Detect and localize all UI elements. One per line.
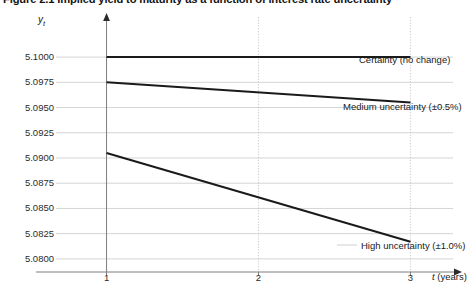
x-tick-label-2: 3 bbox=[398, 272, 422, 283]
y-tick-label-7: 5.0975 bbox=[8, 77, 54, 87]
x-axis-title-unit: (years) bbox=[435, 271, 467, 282]
figure-container: Figure 2.1 Implied yield to maturity as … bbox=[0, 0, 474, 297]
y-tick-label-5: 5.0925 bbox=[8, 128, 54, 138]
y-tick-label-8: 5.1000 bbox=[8, 52, 54, 62]
x-tick-label-1: 2 bbox=[247, 272, 271, 283]
x-tick-label-0: 1 bbox=[95, 272, 119, 283]
y-axis-tick-labels: 5.08005.08255.08505.08755.09005.09255.09… bbox=[8, 0, 54, 297]
series-label-high-uncertainty: High uncertainty (±1.0%) bbox=[361, 240, 465, 251]
y-tick-label-3: 5.0875 bbox=[8, 178, 54, 188]
series-label-medium-uncertainty: Medium uncertainty (±0.5%) bbox=[343, 101, 462, 112]
y-axis-title-subscript: t bbox=[43, 19, 45, 28]
y-tick-label-1: 5.0825 bbox=[8, 229, 54, 239]
chart-plot-area bbox=[0, 0, 474, 297]
y-tick-label-4: 5.0900 bbox=[8, 153, 54, 163]
y-tick-label-6: 5.0950 bbox=[8, 103, 54, 113]
series-label-certainty: Certainty (no change) bbox=[359, 54, 450, 65]
y-tick-label-0: 5.0800 bbox=[8, 254, 54, 264]
x-axis-title: t (years) bbox=[432, 271, 467, 282]
x-axis-tick-labels: 123 bbox=[0, 272, 474, 286]
y-axis-arrowhead bbox=[103, 13, 110, 21]
y-axis-title: yt bbox=[38, 14, 45, 28]
y-tick-label-2: 5.0850 bbox=[8, 203, 54, 213]
